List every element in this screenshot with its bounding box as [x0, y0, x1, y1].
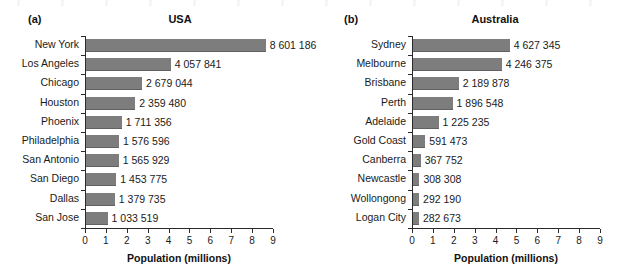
category-label-usa-4: Phoenix	[41, 115, 79, 127]
value-label-usa-7: 1 453 775	[120, 173, 167, 185]
bar-usa-1	[86, 58, 171, 71]
bar-usa-8	[86, 193, 115, 206]
category-label-australia-3: Perth	[381, 96, 406, 108]
x-tick-usa-5	[189, 229, 190, 233]
plot-area-usa: 0123456789New York8 601 186Los Angeles4 …	[85, 36, 273, 228]
x-tick-label-usa-7: 7	[221, 235, 241, 246]
x-tick-usa-9	[273, 229, 274, 233]
y-tick-australia-4	[408, 113, 412, 114]
x-axis-line-australia	[412, 228, 600, 229]
plot-area-australia: 0123456789Sydney4 627 345Melbourne4 246 …	[412, 36, 600, 228]
value-label-usa-3: 2 359 480	[139, 97, 186, 109]
panel-title-usa: USA	[120, 13, 240, 25]
category-label-usa-1: Los Angeles	[22, 57, 79, 69]
x-tick-label-usa-1: 1	[96, 235, 116, 246]
bar-row: Newcastle308 308	[412, 170, 600, 189]
bar-usa-2	[86, 77, 142, 90]
y-tick-australia-5	[408, 132, 412, 133]
y-tick-usa-4	[81, 113, 85, 114]
panel-usa: (a) USA 0123456789New York8 601 186Los A…	[0, 0, 314, 279]
bar-row: Wollongong292 190	[412, 190, 600, 209]
bar-usa-5	[86, 135, 119, 148]
bar-row: New York8 601 186	[85, 36, 273, 55]
x-tick-usa-7	[231, 229, 232, 233]
category-label-australia-5: Gold Coast	[353, 134, 406, 146]
figure-two-panel-bar-charts: (a) USA 0123456789New York8 601 186Los A…	[0, 0, 629, 279]
bar-row: Perth1 896 548	[412, 94, 600, 113]
y-tick-australia-9	[408, 209, 412, 210]
x-tick-label-usa-9: 9	[263, 235, 283, 246]
bar-australia-8	[413, 193, 419, 206]
bar-row: Logan City282 673	[412, 209, 600, 228]
bar-usa-7	[86, 173, 116, 186]
y-tick-australia-6	[408, 151, 412, 152]
x-tick-australia-5	[516, 229, 517, 233]
x-tick-label-australia-2: 2	[444, 235, 464, 246]
x-tick-label-australia-7: 7	[548, 235, 568, 246]
bar-row: Phoenix1 711 356	[85, 113, 273, 132]
y-tick-usa-8	[81, 190, 85, 191]
bar-row: Houston2 359 480	[85, 94, 273, 113]
value-label-usa-0: 8 601 186	[270, 39, 317, 51]
bar-australia-7	[413, 173, 419, 186]
bar-australia-6	[413, 154, 421, 167]
value-label-australia-3: 1 896 548	[457, 97, 504, 109]
x-tick-label-australia-6: 6	[527, 235, 547, 246]
y-tick-usa-3	[81, 94, 85, 95]
bar-row: Dallas1 379 735	[85, 190, 273, 209]
x-tick-label-australia-5: 5	[506, 235, 526, 246]
x-tick-label-usa-6: 6	[200, 235, 220, 246]
value-label-australia-2: 2 189 878	[463, 77, 510, 89]
x-axis-title-usa: Population (millions)	[85, 252, 273, 264]
panel-title-australia: Australia	[435, 13, 555, 25]
x-tick-australia-8	[579, 229, 580, 233]
value-label-australia-9: 282 673	[423, 212, 461, 224]
value-label-australia-1: 4 246 375	[506, 58, 553, 70]
x-tick-label-usa-5: 5	[179, 235, 199, 246]
value-label-australia-6: 367 752	[425, 154, 463, 166]
value-label-australia-7: 308 308	[423, 173, 461, 185]
bar-usa-6	[86, 154, 119, 167]
y-tick-usa-1	[81, 55, 85, 56]
x-tick-australia-0	[412, 229, 413, 233]
bar-australia-4	[413, 116, 439, 129]
y-tick-usa-7	[81, 170, 85, 171]
x-tick-australia-9	[600, 229, 601, 233]
x-tick-label-australia-3: 3	[465, 235, 485, 246]
x-tick-australia-1	[433, 229, 434, 233]
y-tick-usa-9	[81, 209, 85, 210]
x-tick-label-usa-4: 4	[159, 235, 179, 246]
bar-australia-3	[413, 97, 453, 110]
value-label-australia-0: 4 627 345	[514, 39, 561, 51]
x-tick-label-australia-4: 4	[486, 235, 506, 246]
category-label-usa-2: Chicago	[40, 76, 79, 88]
category-label-usa-3: Houston	[40, 96, 79, 108]
y-tick-usa-end	[81, 228, 85, 229]
x-tick-usa-6	[210, 229, 211, 233]
category-label-australia-2: Brisbane	[365, 76, 406, 88]
y-tick-usa-0	[81, 36, 85, 37]
x-tick-label-australia-8: 8	[569, 235, 589, 246]
panel-tag-a: (a)	[28, 13, 41, 25]
x-tick-label-usa-0: 0	[75, 235, 95, 246]
panel-australia: (b) Australia 0123456789Sydney4 627 345M…	[315, 0, 629, 279]
x-tick-usa-2	[127, 229, 128, 233]
y-tick-australia-2	[408, 74, 412, 75]
bar-row: Sydney4 627 345	[412, 36, 600, 55]
y-tick-australia-0	[408, 36, 412, 37]
bar-australia-2	[413, 77, 459, 90]
value-label-usa-4: 1 711 356	[126, 116, 172, 128]
category-label-usa-9: San Jose	[35, 211, 79, 223]
bar-row: Los Angeles4 057 841	[85, 55, 273, 74]
bar-australia-5	[413, 135, 425, 148]
x-tick-label-usa-8: 8	[242, 235, 262, 246]
bar-usa-9	[86, 212, 108, 225]
y-tick-usa-2	[81, 74, 85, 75]
category-label-usa-8: Dallas	[50, 192, 79, 204]
y-tick-usa-5	[81, 132, 85, 133]
value-label-australia-8: 292 190	[423, 193, 461, 205]
category-label-australia-1: Melbourne	[356, 57, 406, 69]
value-label-usa-1: 4 057 841	[175, 58, 222, 70]
value-label-australia-5: 591 473	[429, 135, 467, 147]
x-tick-usa-0	[85, 229, 86, 233]
